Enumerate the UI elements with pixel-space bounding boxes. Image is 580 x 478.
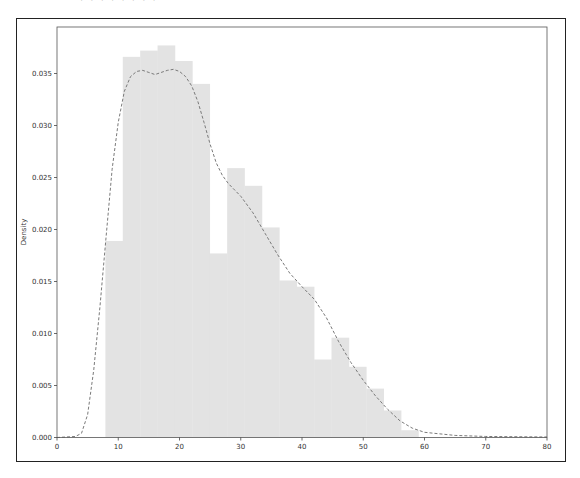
histogram-bar <box>140 51 158 438</box>
histogram-bar <box>123 57 141 438</box>
histogram-bar <box>158 45 176 437</box>
y-tick-label: 0.030 <box>32 122 52 130</box>
y-tick-label: 0.035 <box>32 70 52 78</box>
histogram-bar <box>349 367 367 438</box>
histogram-bar <box>314 360 332 438</box>
histogram-bar <box>245 186 263 438</box>
histogram-bar <box>401 430 419 437</box>
histogram-bar <box>384 410 402 437</box>
y-axis: 0.0000.0050.0100.0150.0200.0250.0300.035 <box>32 70 57 442</box>
histogram-bar <box>332 338 350 438</box>
y-tick-label: 0.015 <box>32 278 52 286</box>
x-tick-label: 80 <box>543 443 552 451</box>
x-tick-label: 10 <box>114 443 123 451</box>
y-tick-label: 0.025 <box>32 174 52 182</box>
x-axis: 01020304050607080 <box>55 438 552 451</box>
histogram-bars <box>105 45 418 437</box>
histogram-bar <box>192 84 210 438</box>
x-tick-label: 0 <box>55 443 59 451</box>
x-tick-label: 50 <box>359 443 368 451</box>
x-tick-label: 20 <box>175 443 184 451</box>
y-tick-label: 0.005 <box>32 382 52 390</box>
y-tick-label: 0.010 <box>32 330 52 338</box>
x-tick-label: 70 <box>481 443 490 451</box>
histogram-bar <box>262 227 280 437</box>
histogram-bar <box>297 287 315 438</box>
histogram-bar <box>210 253 228 437</box>
histogram-bar <box>175 61 193 437</box>
y-tick-label: 0.020 <box>32 226 52 234</box>
x-tick-label: 40 <box>298 443 307 451</box>
density-histogram-chart: 01020304050607080 0.0000.0050.0100.0150.… <box>0 0 580 478</box>
histogram-bar <box>279 280 297 437</box>
histogram-bar <box>227 168 245 437</box>
x-tick-label: 30 <box>236 443 245 451</box>
y-tick-label: 0.000 <box>32 434 52 442</box>
histogram-bar <box>105 241 123 438</box>
y-axis-label: Density <box>20 219 28 246</box>
x-tick-label: 60 <box>420 443 429 451</box>
